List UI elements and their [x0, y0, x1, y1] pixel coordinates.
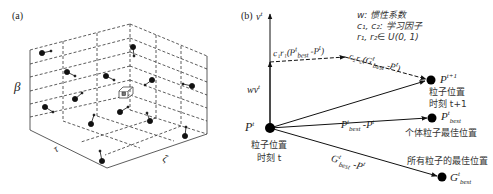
next-time-caption: 时刻 t+1 [429, 100, 467, 109]
current-time-caption: 时刻 t [257, 154, 281, 163]
current-position-caption: 粒子位置 [251, 141, 287, 150]
next-position-dot [427, 76, 436, 85]
pbest-label: Ptbest [441, 110, 461, 125]
next-position-caption: 粒子位置 [429, 88, 465, 97]
panel-a-label: (a) [12, 11, 23, 21]
inertia-label: wvt [247, 84, 260, 95]
gbest-dot [438, 173, 447, 182]
next-position-label: Pt+1 [440, 73, 457, 85]
legend-learning-factors: c₁, c₂: 学习因子 [357, 21, 422, 32]
cognitive-term-label: c₁r₁(Ptbest -Pt) [273, 45, 325, 61]
gbest-caption: 所有粒子的最佳位置 [407, 157, 488, 166]
panel-b-label: (b) [241, 11, 253, 21]
gbest-box-icon [119, 87, 133, 98]
legend-random-range: r₁, r₂∈ U(0, 1) [357, 32, 422, 43]
pbest-diff-label: Ptbest -Pt [341, 119, 374, 133]
current-position-label: Pt [245, 121, 254, 133]
velocity-label: vt [256, 11, 262, 22]
legend-block: w: 惯性系数 c₁, c₂: 学习因子 r₁, r₂∈ U(0, 1) [357, 10, 422, 43]
legend-inertia: w: 惯性系数 [357, 10, 422, 21]
pbest-dot [428, 114, 437, 123]
pbest-caption: 个体粒子最佳位置 [405, 129, 477, 138]
current-position-dot [265, 123, 275, 133]
axis-beta-label: β [14, 80, 20, 93]
gbest-label: Gtbest [450, 171, 471, 186]
